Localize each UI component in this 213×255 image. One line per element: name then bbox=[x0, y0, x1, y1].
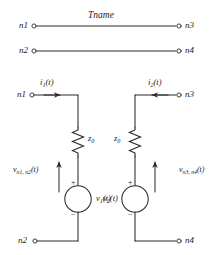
polarity-plus-right: + bbox=[128, 179, 133, 187]
polarity-minus-right: − bbox=[128, 211, 133, 219]
node-label-n1-top: n1 bbox=[19, 21, 28, 30]
terminal-n1-circuit bbox=[30, 93, 34, 97]
impedance-subscript-left: 0 bbox=[91, 138, 94, 144]
right-bottom-wire bbox=[135, 212, 176, 241]
node-label-n3-top: n3 bbox=[185, 21, 194, 30]
transmission-line-name: Tname bbox=[88, 11, 114, 21]
left-top-wire bbox=[35, 95, 78, 127]
terminal-n3-top bbox=[177, 24, 181, 28]
port-voltage-subscript-right: n3, n4 bbox=[183, 169, 197, 175]
terminal-n3-circuit bbox=[177, 93, 181, 97]
source-arg-v2: (t) bbox=[110, 193, 118, 203]
terminal-n1-top bbox=[32, 24, 36, 28]
circuit-diagram-canvas: Tname n1 n3 n2 n4 n1 n2 n3 n4 i1(t) i2(t… bbox=[0, 0, 213, 255]
terminal-n4-top bbox=[177, 49, 181, 53]
port-voltage-label-right: vn3, n4(t) bbox=[179, 166, 205, 175]
impedance-label-left: z0 bbox=[88, 134, 94, 144]
port-voltage-label-left: vn1, n2(t) bbox=[13, 166, 39, 175]
current-arg-i1: (t) bbox=[45, 77, 53, 87]
resistor-z0-right bbox=[130, 127, 141, 157]
terminal-n4-circuit bbox=[177, 239, 181, 243]
port-voltage-subscript-left: n1, n2 bbox=[17, 169, 31, 175]
impedance-label-right: z0 bbox=[114, 134, 120, 144]
node-label-n1-circuit: n1 bbox=[17, 90, 26, 99]
source-label-v2: v2(t) bbox=[103, 194, 118, 204]
right-top-wire bbox=[135, 95, 176, 127]
polarity-plus-left: + bbox=[71, 179, 76, 187]
node-label-n4-top: n4 bbox=[185, 46, 194, 55]
port-voltage-arg-right: (t) bbox=[197, 165, 205, 174]
resistor-z0-left bbox=[73, 127, 84, 157]
current-label-i1: i1(t) bbox=[40, 78, 53, 88]
current-arg-i2: (t) bbox=[153, 77, 161, 87]
terminal-n2-circuit bbox=[33, 239, 37, 243]
circuit-schematic-svg bbox=[0, 0, 213, 255]
impedance-subscript-right: 0 bbox=[117, 138, 120, 144]
current-label-i2: i2(t) bbox=[148, 78, 161, 88]
terminal-n2-top bbox=[32, 49, 36, 53]
node-label-n3-circuit: n3 bbox=[185, 90, 194, 99]
voltage-source-v1 bbox=[65, 186, 91, 212]
polarity-minus-left: − bbox=[71, 211, 76, 219]
node-label-n2-circuit: n2 bbox=[18, 236, 27, 245]
node-label-n4-circuit: n4 bbox=[185, 236, 194, 245]
node-label-n2-top: n2 bbox=[19, 46, 28, 55]
port-voltage-arg-left: (t) bbox=[31, 165, 39, 174]
voltage-source-v2 bbox=[122, 186, 148, 212]
